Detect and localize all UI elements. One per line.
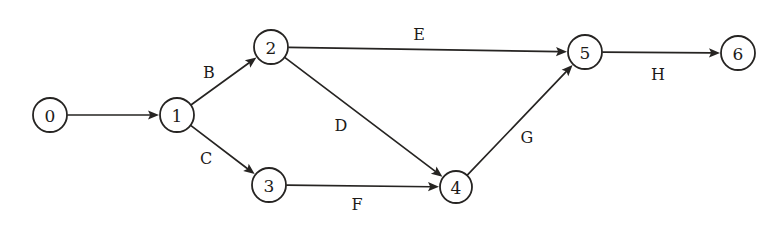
node-label: 2 (266, 38, 277, 58)
edge-line (287, 185, 431, 187)
node-label: 4 (451, 178, 462, 198)
edge-label-h: H (651, 65, 665, 84)
graph-node-6[interactable]: 6 (721, 36, 755, 70)
graph-edge-b (192, 58, 257, 105)
node-label: 5 (580, 43, 591, 63)
edge-label-g: G (521, 128, 534, 147)
edge-label-d: D (335, 116, 348, 135)
node-label: 0 (45, 106, 56, 126)
edge-line (289, 47, 559, 51)
edge-line (468, 71, 567, 175)
node-label: 6 (733, 44, 744, 64)
arrow-head-icon (243, 164, 255, 174)
graph-edge-h (603, 48, 720, 57)
graph-node-2[interactable]: 2 (254, 30, 288, 64)
edge-label-c: C (200, 149, 212, 168)
graph-edge-0-1 (68, 110, 159, 119)
graph-node-3[interactable]: 3 (252, 168, 286, 202)
node-label: 3 (264, 176, 275, 196)
edge-label-b: B (203, 63, 215, 82)
graph-edge-g (468, 65, 573, 175)
edge-line (285, 58, 435, 172)
nodes-layer: 0123456 (33, 30, 755, 203)
graph-node-4[interactable]: 4 (440, 171, 472, 203)
edge-line (192, 63, 250, 105)
graph-edge-d (285, 58, 442, 177)
directed-graph-canvas: BCEDFGH 0123456 (0, 0, 783, 228)
edge-label-f: F (351, 195, 362, 214)
edge-line (603, 52, 712, 53)
graph-node-1[interactable]: 1 (160, 98, 194, 132)
graph-edge-f (287, 182, 439, 191)
arrow-head-icon (431, 166, 443, 176)
graph-node-0[interactable]: 0 (33, 98, 67, 132)
arrow-head-icon (245, 58, 257, 68)
graph-node-5[interactable]: 5 (568, 35, 602, 69)
node-label: 1 (172, 106, 183, 126)
edge-label-e: E (413, 25, 425, 44)
graph-edge-e (289, 47, 567, 56)
